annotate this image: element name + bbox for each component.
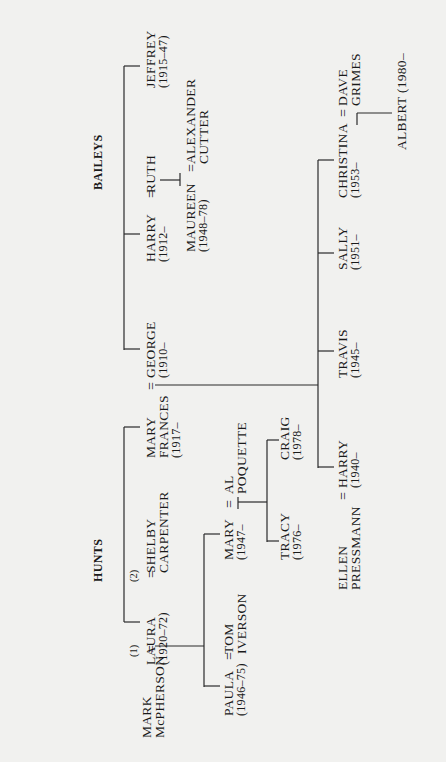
marriage-order-2: (2) xyxy=(128,570,139,582)
person-george: GEORGE (1910– xyxy=(144,321,170,378)
person-paula: PAULA (1946–75) xyxy=(222,663,248,716)
person-mary: MARY (1947– xyxy=(222,519,248,560)
marriage-symbol: = xyxy=(144,382,160,390)
person-tom-iverson: TOM IVERSON xyxy=(222,593,248,654)
person-albert: ALBERT (1980– xyxy=(395,53,408,150)
marriage-symbol: = xyxy=(184,164,200,172)
person-tracy: TRACY (1976– xyxy=(278,513,304,560)
person-alexander-cutter: ALEXANDER CUTTER xyxy=(184,79,210,164)
person-craig: CRAIG (1978– xyxy=(278,416,304,460)
marriage-symbol: = xyxy=(222,500,238,508)
marriage-symbol: = xyxy=(336,492,352,500)
person-jeffrey: JEFFREY (1915–47) xyxy=(144,30,170,88)
person-harry-jr: HARRY (1940– xyxy=(336,440,362,488)
person-sally: SALLY (1951– xyxy=(336,226,362,270)
person-travis: TRAVIS (1945– xyxy=(336,329,362,378)
family-tree-diagram: BAILEYS HUNTS JEFFREY (1915–47) HARRY (1… xyxy=(0,0,446,762)
family-label-baileys: BAILEYS xyxy=(91,135,106,191)
person-ellen-pressmann: ELLEN PRESSMANN xyxy=(336,506,362,590)
person-maureen: MAUREEN (1948–78) xyxy=(184,183,210,252)
person-christina: CHRISTINA (1953– xyxy=(336,123,362,198)
marriage-symbol: = xyxy=(336,109,352,117)
person-dave-grimes: DAVE GRIMES xyxy=(336,53,362,106)
person-shelby-carpenter: SHELBY CARPENTER xyxy=(144,492,170,573)
person-mary-frances: MARY FRANCES (1917– xyxy=(144,395,183,458)
person-mark-mcpherson: MARK McPHERSON xyxy=(140,656,166,738)
person-ruth: RUTH xyxy=(144,155,157,193)
person-al-poquette: AL POQUETTE xyxy=(222,422,248,494)
marriage-order-1: (1) xyxy=(128,645,139,657)
marriage-symbol: = xyxy=(144,645,160,653)
family-label-hunts: HUNTS xyxy=(91,539,106,582)
person-harry-sr: HARRY (1912– xyxy=(144,214,170,262)
